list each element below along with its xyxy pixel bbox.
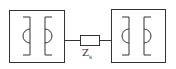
- left-block-element-b: [45, 17, 52, 55]
- impedance-subscript: s: [89, 53, 92, 60]
- impedance-symbol: Z: [82, 47, 89, 58]
- right-block-element-b: [144, 17, 151, 55]
- impedance-box: [81, 36, 100, 46]
- left-block-element-a: [23, 17, 30, 55]
- impedance-label: Zs: [82, 48, 92, 62]
- right-block-element-a: [122, 17, 129, 55]
- right-block: [112, 10, 166, 63]
- left-block: [10, 11, 65, 63]
